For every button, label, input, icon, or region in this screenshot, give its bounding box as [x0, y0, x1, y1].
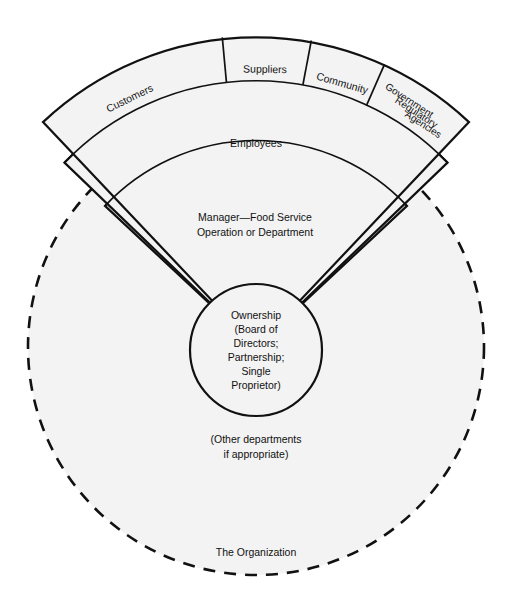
- manager-ring-label-line1: Manager—Food Service: [198, 211, 312, 223]
- diagram-root: Customers Suppliers Community Government…: [0, 0, 506, 615]
- manager-ring-label-line2: Operation or Department: [197, 226, 313, 238]
- segment-label-suppliers: Suppliers: [243, 62, 287, 75]
- other-departments-line2: if appropriate): [224, 448, 289, 460]
- ownership-label-line6: Proprietor): [231, 379, 281, 391]
- ownership-label-line3: Directors;: [234, 337, 279, 349]
- organization-boundary-label: The Organization: [216, 546, 297, 558]
- ownership-label-line1: Ownership: [231, 309, 281, 321]
- employees-ring-label: Employees: [230, 137, 282, 149]
- ownership-label-line4: Partnership;: [228, 351, 285, 363]
- ownership-label-line2: (Board of: [234, 323, 277, 335]
- ownership-label-line5: Single: [241, 365, 270, 377]
- other-departments-line1: (Other departments: [210, 433, 301, 445]
- stakeholder-concentric-diagram: Customers Suppliers Community Government…: [0, 0, 506, 615]
